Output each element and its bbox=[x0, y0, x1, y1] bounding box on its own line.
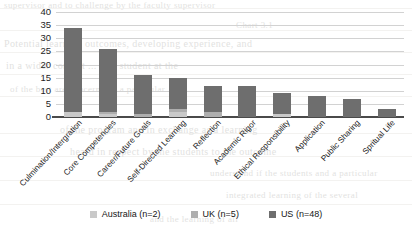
bar[interactable] bbox=[204, 86, 222, 118]
legend-item[interactable]: Australia (n=2) bbox=[90, 210, 161, 219]
bar[interactable] bbox=[99, 49, 117, 117]
gridline bbox=[56, 38, 404, 39]
x-axis-tick-label: Reflection bbox=[192, 119, 223, 151]
legend-swatch-icon bbox=[191, 211, 198, 218]
bar-segment bbox=[273, 93, 291, 114]
gridline bbox=[56, 12, 404, 13]
x-axis-labels: Culmination/IntergrationCore Competencie… bbox=[0, 119, 412, 204]
chart-legend: Australia (n=2)UK (n=5)US (n=48) bbox=[0, 210, 412, 219]
bar-segment bbox=[99, 49, 117, 112]
bar-segment bbox=[64, 112, 82, 117]
bar-segment bbox=[169, 78, 187, 110]
legend-swatch-icon bbox=[269, 211, 276, 218]
bar-segment bbox=[64, 28, 82, 112]
bar-segment bbox=[134, 114, 152, 117]
y-axis-tick-label: 25 bbox=[40, 47, 51, 57]
x-axis-tick-label: Application bbox=[294, 119, 327, 154]
legend-label: US (n=48) bbox=[281, 210, 322, 219]
bar[interactable] bbox=[273, 93, 291, 117]
bar-segment bbox=[273, 114, 291, 117]
legend-label: Australia (n=2) bbox=[102, 210, 161, 219]
x-axis-tick-label: Culmination/Intergration bbox=[18, 119, 83, 188]
bar-segment bbox=[99, 114, 117, 117]
y-axis-tick-label: 35 bbox=[40, 20, 51, 30]
y-axis-tick-label: 5 bbox=[46, 99, 51, 109]
bar-segment bbox=[378, 109, 396, 117]
bar-chart-figure: 0510152025303540 Culmination/Intergratio… bbox=[0, 0, 412, 236]
bar[interactable] bbox=[134, 75, 152, 117]
y-axis-tick-label: 40 bbox=[40, 7, 51, 17]
bar[interactable] bbox=[308, 96, 326, 117]
plot-area: 0510152025303540 bbox=[56, 12, 404, 117]
bar-segment bbox=[134, 75, 152, 114]
y-axis-tick-label: 20 bbox=[40, 60, 51, 70]
bar[interactable] bbox=[169, 78, 187, 117]
x-axis-tick-label: Public Sharing bbox=[320, 119, 362, 163]
legend-swatch-icon bbox=[90, 211, 97, 218]
bar[interactable] bbox=[343, 99, 361, 117]
bar-segment bbox=[238, 86, 256, 118]
bar[interactable] bbox=[238, 86, 256, 118]
y-axis-tick-label: 10 bbox=[40, 86, 51, 96]
bar-segment bbox=[308, 96, 326, 117]
bar-segment bbox=[204, 112, 222, 117]
legend-item[interactable]: UK (n=5) bbox=[191, 210, 239, 219]
bar-segment bbox=[169, 112, 187, 117]
y-axis-tick-label: 15 bbox=[40, 73, 51, 83]
legend-label: UK (n=5) bbox=[203, 210, 239, 219]
bar[interactable] bbox=[378, 109, 396, 117]
bar-segment bbox=[343, 99, 361, 117]
y-axis-tick-label: 30 bbox=[40, 34, 51, 44]
bar-segment bbox=[204, 86, 222, 112]
bar[interactable] bbox=[64, 28, 82, 117]
x-axis-tick-label: Spritual Life bbox=[361, 119, 396, 156]
legend-item[interactable]: US (n=48) bbox=[269, 210, 322, 219]
gridline bbox=[56, 25, 404, 26]
